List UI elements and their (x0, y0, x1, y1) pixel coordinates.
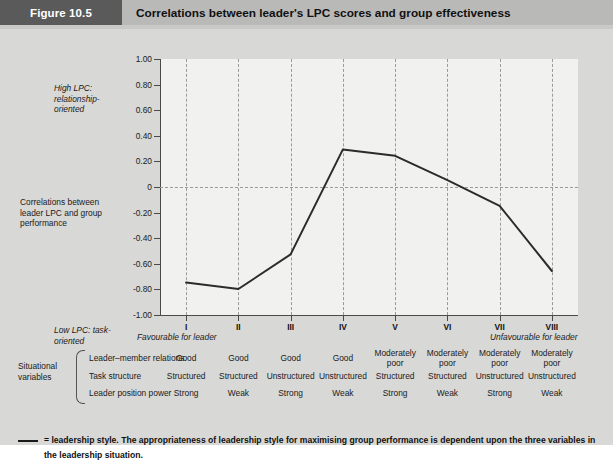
y-axis-ticks: 1.000.800.600.400.200-0.20-0.40-0.60-0.8… (100, 53, 152, 321)
x-tick-label: V (392, 322, 398, 332)
variable-cell: Moderatelypoor (531, 348, 572, 368)
y-tick-label: 0 (100, 182, 152, 192)
y-tick-label: 1.00 (100, 54, 152, 64)
figure-body: High LPC: relationship-oriented Correlat… (0, 29, 613, 445)
x-tick-mark (500, 316, 501, 321)
zero-gridline (160, 187, 578, 188)
y-tick-mark (154, 213, 160, 214)
x-tick-mark (395, 316, 396, 321)
x-tick-label: VII (495, 322, 505, 332)
variable-cell: Moderatelypoor (479, 348, 520, 368)
x-axis-line (160, 315, 578, 316)
x-tick-label: III (287, 322, 294, 332)
figure-number-badge: Figure 10.5 (0, 0, 122, 25)
vertical-gridline (552, 59, 553, 315)
variable-cell: Unstructured (319, 371, 367, 381)
y-tick-label: -0.40 (100, 233, 152, 243)
y-tick-label: -0.20 (100, 208, 152, 218)
y-tick-label: -0.80 (100, 284, 152, 294)
y-tick-mark (154, 110, 160, 111)
variable-cell: Unstructured (528, 371, 576, 381)
y-tick-mark (154, 289, 160, 290)
vertical-gridline (395, 59, 396, 315)
vertical-gridline (343, 59, 344, 315)
variable-cell: Structured (219, 371, 258, 381)
variable-row-label: Leader position power (89, 388, 171, 398)
y-tick-mark (154, 238, 160, 239)
variable-row-label: Leader–member relations (89, 353, 184, 363)
variable-cell: Good (280, 353, 301, 363)
variable-cell: Structured (167, 371, 206, 381)
variable-cell: Weak (437, 388, 458, 398)
y-tick-mark (154, 59, 160, 60)
x-tick-label: IV (339, 322, 347, 332)
x-tick-mark (186, 316, 187, 321)
x-tick-mark (291, 316, 292, 321)
variable-row-label: Task structure (89, 371, 141, 381)
brace-icon (76, 350, 85, 404)
y-tick-mark (154, 85, 160, 86)
vertical-gridline (500, 59, 501, 315)
variable-cell: Moderatelypoor (374, 348, 415, 368)
variable-cell: Unstructured (476, 371, 524, 381)
variable-cell: Strong (174, 388, 199, 398)
vertical-gridline (186, 59, 187, 315)
x-tick-mark (238, 316, 239, 321)
situational-variables-label: Situational variables (18, 361, 74, 382)
vertical-gridline (238, 59, 239, 315)
y-tick-mark (154, 136, 160, 137)
variable-cell: Weak (541, 388, 562, 398)
y-tick-mark (154, 187, 160, 188)
y-tick-label: 0.60 (100, 105, 152, 115)
figure-header: Figure 10.5 Correlations between leader'… (0, 0, 613, 25)
y-tick-label: 0.40 (100, 131, 152, 141)
variable-cell: Structured (428, 371, 467, 381)
figure-footnote: = leadership style. The appropriateness … (44, 433, 599, 463)
variable-cell: Structured (376, 371, 415, 381)
y-tick-label: 0.20 (100, 156, 152, 166)
x-tick-label: VI (443, 322, 451, 332)
vertical-gridline (447, 59, 448, 315)
y-tick-mark (154, 264, 160, 265)
unfavourable-label: Unfavourable for leader (490, 332, 578, 342)
y-tick-mark (154, 161, 160, 162)
variable-cell: Good (333, 353, 354, 363)
y-tick-label: -1.00 (100, 310, 152, 320)
variable-cell: Weak (332, 388, 353, 398)
variable-cell: Good (176, 353, 197, 363)
y-tick-mark (154, 315, 160, 316)
vertical-gridline (291, 59, 292, 315)
variable-cell: Moderatelypoor (427, 348, 468, 368)
y-tick-label: 0.80 (100, 80, 152, 90)
x-tick-mark (343, 316, 344, 321)
favourable-label: Favourable for leader (137, 332, 217, 342)
x-tick-label: II (236, 322, 241, 332)
legend-line-icon (18, 440, 38, 442)
x-tick-mark (447, 316, 448, 321)
x-tick-label: I (185, 322, 187, 332)
variable-cell: Weak (228, 388, 249, 398)
variable-cell: Strong (383, 388, 408, 398)
x-tick-mark (552, 316, 553, 321)
variable-cell: Strong (278, 388, 303, 398)
situational-variables-table: Situational variables Leader–member rela… (0, 347, 613, 407)
figure-title: Correlations between leader's LPC scores… (122, 0, 613, 25)
variable-cell: Good (228, 353, 249, 363)
variable-cell: Strong (487, 388, 512, 398)
variable-cell: Unstructured (267, 371, 315, 381)
x-tick-label: VIII (546, 322, 559, 332)
y-tick-label: -0.60 (100, 259, 152, 269)
